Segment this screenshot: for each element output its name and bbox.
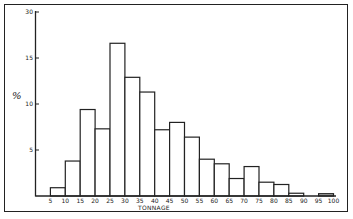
y-axis-label: % [12,90,22,101]
histogram-bar [110,43,125,196]
x-tick-label: 80 [270,197,278,204]
histogram-bar [214,164,229,196]
histogram-bar [185,137,200,196]
histogram-bar [244,167,259,196]
x-tick-label: 15 [76,197,84,204]
histogram-bar [274,185,289,197]
x-tick-label: 30 [121,197,129,204]
y-tick-label: 10 [25,100,33,107]
x-tick-label: 50 [181,197,189,204]
x-tick-label: 40 [151,197,159,204]
x-tick-label: 25 [106,197,114,204]
histogram-bar [95,129,110,196]
histogram-bar [229,179,244,196]
x-tick-label: 55 [196,197,204,204]
histogram-bar [199,159,214,196]
histogram-bar [50,188,65,196]
x-tick-label: 100 [328,197,340,204]
histogram-bar [80,110,95,196]
x-tick-label: 35 [136,197,144,204]
x-tick-label: 5 [48,197,52,204]
histogram-chart: 5101530 51015202530354045505560657075808… [0,0,353,219]
x-axis-label: TONNAGE [137,204,170,211]
histogram-bar [155,130,170,196]
y-ticks: 5101530 [25,8,39,153]
x-tick-label: 70 [240,197,248,204]
x-tick-label: 65 [225,197,233,204]
x-tick-label: 10 [61,197,69,204]
y-tick-label: 15 [25,54,33,61]
x-ticks: 5101520253035404550556065707580859095100 [48,197,339,204]
x-tick-label: 20 [91,197,99,204]
x-tick-label: 90 [300,197,308,204]
bars-group [50,43,333,196]
x-tick-label: 75 [255,197,263,204]
histogram-bar [140,92,155,196]
histogram-bar [125,77,140,196]
y-tick-label: 30 [25,8,33,15]
histogram-bar [259,182,274,196]
x-tick-label: 85 [285,197,293,204]
x-tick-label: 60 [210,197,218,204]
x-tick-label: 45 [166,197,174,204]
x-tick-label: 95 [315,197,323,204]
histogram-bar [170,122,185,196]
y-tick-label: 5 [29,146,33,153]
histogram-bar [65,161,80,196]
